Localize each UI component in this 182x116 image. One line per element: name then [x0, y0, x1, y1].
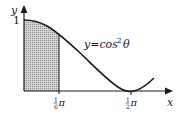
- svg-text:y=cos: y=cos: [83, 38, 118, 51]
- svg-text:2: 2: [126, 103, 130, 110]
- x-axis-label: x: [167, 96, 174, 109]
- svg-text:θ: θ: [123, 38, 130, 51]
- sixth-pi-label: 1 6 π: [54, 96, 66, 110]
- curve-label: y=cos 2 θ: [83, 37, 130, 51]
- x-axis-arrow-icon: [165, 88, 173, 95]
- half-pi-label: 1 2 π: [126, 96, 138, 110]
- y-tick-one: 1: [13, 14, 20, 27]
- y-axis-arrow-icon: [21, 5, 28, 13]
- svg-text:π: π: [130, 97, 138, 108]
- svg-text:π: π: [58, 97, 66, 108]
- cos-squared-diagram: y 1 x y=cos 2 θ 1 6 π 1 2 π: [0, 0, 182, 116]
- svg-text:1: 1: [126, 96, 130, 103]
- svg-text:1: 1: [54, 96, 58, 103]
- svg-text:6: 6: [54, 103, 58, 110]
- svg-text:2: 2: [117, 37, 121, 45]
